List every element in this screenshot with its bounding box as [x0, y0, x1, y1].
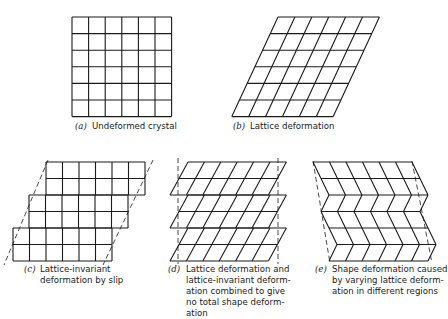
- caption-d-label: (d): [168, 264, 180, 275]
- lattice-line: [363, 162, 371, 179]
- lattice-line: [371, 179, 379, 196]
- lattice-line: [379, 228, 387, 245]
- lattice-line: [338, 212, 346, 229]
- lattice-line: [404, 179, 412, 196]
- lattice-line: [404, 212, 412, 229]
- caption-b-label: (b): [233, 121, 245, 132]
- lattice-line: [412, 228, 420, 245]
- caption-b-line: Lattice deformation: [250, 121, 334, 132]
- lattice-line: [362, 245, 370, 262]
- caption-d-line: ation combined to give: [186, 286, 291, 297]
- lattice-line: [387, 195, 395, 212]
- lattice-line: [362, 228, 370, 245]
- lattice-line: [354, 195, 362, 212]
- lattice-line: [354, 179, 362, 196]
- caption-d-line: no total shape deform-: [186, 297, 291, 308]
- lattice-line: [396, 162, 404, 179]
- lattice-line: [354, 212, 362, 229]
- lattice-line: [395, 228, 403, 245]
- lattice-line: [428, 245, 436, 262]
- caption-c-line: deformation by slip: [40, 275, 123, 286]
- lattice-line: [379, 162, 387, 179]
- panel-a-undeformed-grid: [72, 17, 172, 117]
- lattice-line: [412, 162, 420, 179]
- panel-b-lattice-deformation-grid: [232, 17, 380, 117]
- caption-c-label: (c): [24, 264, 36, 275]
- panel-e-zigzag-grid: [313, 161, 436, 263]
- caption-d-line: ation: [186, 308, 291, 319]
- lattice-line: [371, 195, 379, 212]
- lattice-line: [412, 245, 420, 262]
- habit-plane-dashed-line: [4, 160, 48, 265]
- lattice-line: [404, 195, 412, 212]
- lattice-line: [329, 228, 337, 245]
- caption-e-line: Shape deformation caused: [332, 264, 448, 275]
- caption-e-line: by varying lattice deform-: [332, 275, 448, 286]
- lattice-line: [346, 228, 354, 245]
- caption-d-line: lattice-invariant deform-: [186, 275, 291, 286]
- caption-a-line: Undeformed crystal: [92, 121, 177, 132]
- panel-d-combined-grid: [170, 158, 286, 264]
- caption-e-label: (e): [315, 264, 327, 275]
- caption-c-line: Lattice-invariant: [40, 264, 123, 275]
- lattice-line: [321, 179, 329, 196]
- lattice-line: [338, 195, 346, 212]
- lattice-line: [346, 162, 354, 179]
- lattice-line: [346, 245, 354, 262]
- lattice-line: [329, 245, 337, 262]
- lattice-line: [387, 179, 395, 196]
- panel-c-slip-grid: [4, 160, 153, 265]
- lattice-line: [428, 228, 436, 245]
- lattice-line: [420, 212, 428, 229]
- lattice-line: [321, 195, 329, 212]
- lattice-line: [379, 245, 387, 262]
- lattice-line: [395, 245, 403, 262]
- lattice-line: [371, 212, 379, 229]
- lattice-line: [338, 179, 346, 196]
- lattice-line: [420, 179, 428, 196]
- lattice-line: [330, 162, 338, 179]
- caption-d-line: Lattice deformation and: [186, 264, 291, 275]
- lattice-line: [387, 212, 395, 229]
- caption-e-line: ation in different regions: [332, 286, 448, 297]
- caption-a-label: (a): [75, 121, 87, 132]
- lattice-line: [321, 212, 329, 229]
